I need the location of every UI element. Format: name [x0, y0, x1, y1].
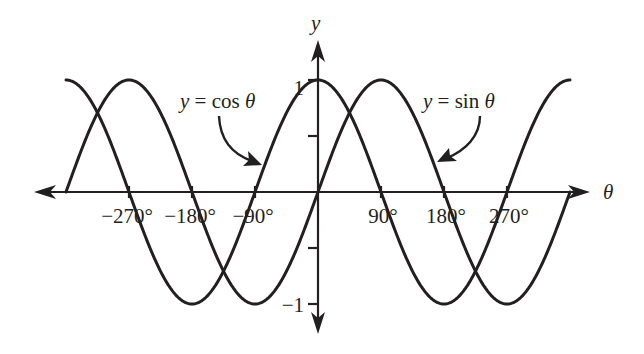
x-tick-label: 180° [426, 204, 466, 228]
annotation-cos-fn: cos [212, 89, 240, 113]
x-tick-label: −270° [101, 204, 153, 228]
annotation-cos-y: y [178, 89, 190, 113]
annotation-sin-theta: θ [479, 89, 495, 113]
x-tick-label: −90° [232, 204, 273, 228]
trig-graph: θ y −270°−180°−90°90°180°270° 1−1 y = co… [0, 0, 644, 354]
annotation-sin-arrow [447, 116, 480, 158]
x-axis-label: θ [603, 180, 613, 204]
annotation-cos-arrow [219, 116, 252, 161]
annotation-sin-eq: = [432, 89, 454, 113]
annotation-cos-theta: θ [240, 89, 256, 113]
y-tick-label: −1 [282, 293, 304, 317]
annotation-sin-fn: sin [455, 89, 480, 113]
annotation-cos-label: y = cos θ [178, 89, 255, 113]
annotations: y = cos θ y = sin θ [178, 89, 495, 166]
annotation-cos-eq: = [189, 89, 211, 113]
annotation-sin-label: y = sin θ [421, 89, 495, 113]
annotation-sin-y: y [421, 89, 433, 113]
x-tick-label: −180° [164, 204, 216, 228]
y-axis-label: y [309, 11, 321, 35]
